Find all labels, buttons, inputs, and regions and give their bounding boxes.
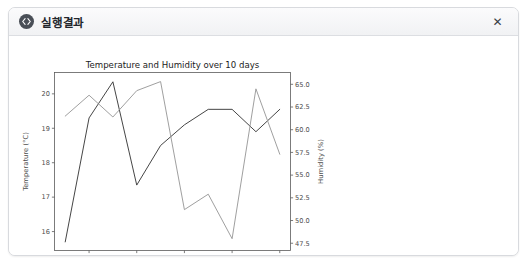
svg-text:20: 20 bbox=[42, 90, 50, 98]
window-title: 실행결과 bbox=[41, 14, 84, 30]
svg-text:52.5: 52.5 bbox=[295, 194, 310, 202]
line-chart: Temperature and Humidity over 10 days246… bbox=[9, 36, 519, 256]
svg-text:18: 18 bbox=[42, 159, 50, 167]
svg-text:47.5: 47.5 bbox=[295, 240, 310, 248]
svg-text:60.0: 60.0 bbox=[295, 126, 310, 134]
svg-text:Humidity (%): Humidity (%) bbox=[317, 139, 325, 184]
svg-text:Temperature and Humidity over: Temperature and Humidity over 10 days bbox=[85, 60, 260, 70]
code-icon bbox=[19, 14, 34, 29]
svg-text:6: 6 bbox=[182, 255, 186, 256]
window-titlebar: 실행결과 ✕ bbox=[9, 8, 518, 36]
svg-text:2: 2 bbox=[87, 255, 91, 256]
svg-text:55.0: 55.0 bbox=[295, 171, 310, 179]
screen-root: 실행결과 ✕ Temperature and Humidity over 10 … bbox=[0, 0, 527, 264]
window-body: Temperature and Humidity over 10 days246… bbox=[9, 36, 518, 256]
svg-text:57.5: 57.5 bbox=[295, 149, 310, 157]
chart-container: Temperature and Humidity over 10 days246… bbox=[9, 36, 519, 256]
svg-text:10: 10 bbox=[276, 255, 284, 256]
svg-text:Temperature (°C): Temperature (°C) bbox=[22, 132, 30, 192]
svg-text:16: 16 bbox=[42, 228, 50, 236]
svg-text:17: 17 bbox=[42, 193, 50, 201]
svg-text:62.5: 62.5 bbox=[295, 103, 310, 111]
svg-text:8: 8 bbox=[230, 255, 234, 256]
svg-text:4: 4 bbox=[135, 255, 139, 256]
result-window: 실행결과 ✕ Temperature and Humidity over 10 … bbox=[8, 7, 519, 256]
svg-text:50.0: 50.0 bbox=[295, 217, 310, 225]
svg-text:19: 19 bbox=[42, 125, 50, 133]
close-icon[interactable]: ✕ bbox=[489, 13, 506, 30]
svg-text:65.0: 65.0 bbox=[295, 81, 310, 89]
